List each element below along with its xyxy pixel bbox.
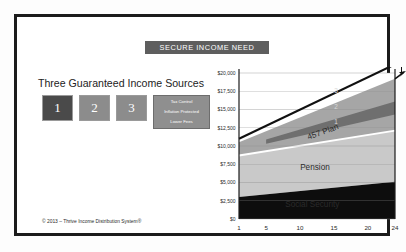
- y-axis-tick-label: $0: [230, 216, 236, 222]
- copyright-text: © 2013 – Thrive Income Distribution Syst…: [42, 219, 141, 224]
- feature-line-tax-control: Tax Control: [171, 100, 193, 104]
- secure-income-need-banner: SECURE INCOME NEED: [145, 41, 269, 54]
- slide-canvas: SECURE INCOME NEED Three Guaranteed Inco…: [0, 0, 406, 252]
- income-source-box-1[interactable]: 1: [42, 95, 73, 121]
- income-source-box-3-label: 3: [128, 100, 135, 116]
- x-axis-tick-label: 1: [237, 224, 241, 231]
- band-label: Pension: [300, 163, 330, 172]
- plan-top-extension: [395, 72, 404, 79]
- series-marker-label: 2: [334, 103, 338, 110]
- x-axis-tick-label: 5: [264, 224, 268, 231]
- band-label: Social Security: [285, 200, 340, 209]
- y-axis-tick-label: $12,500: [217, 125, 235, 131]
- y-axis-tick-label: $15,000: [217, 106, 235, 112]
- chart-svg: $20,000$17,500$15,000$12,500$10,000$7,50…: [207, 67, 406, 239]
- banner-label: SECURE INCOME NEED: [160, 43, 255, 52]
- x-axis-tick-label: 20: [364, 224, 371, 231]
- series-marker-label: 1: [334, 118, 338, 125]
- y-axis-tick-label: $17,500: [217, 88, 235, 94]
- income-stack-chart: $20,000$17,500$15,000$12,500$10,000$7,50…: [207, 67, 406, 239]
- y-axis-tick-label: $5,000: [220, 179, 236, 185]
- x-axis-tick-label: 24: [392, 224, 399, 231]
- income-source-box-1-label: 1: [54, 100, 61, 116]
- x-axis-tick-label: 10: [297, 224, 304, 231]
- y-axis-tick-label: $20,000: [217, 70, 235, 76]
- feature-line-inflation-protected: Inflation Protected: [164, 110, 199, 114]
- x-axis-tick-label: 15: [331, 224, 338, 231]
- y-axis-tick-label: $7,500: [220, 161, 236, 167]
- income-sources-row: 1 2 3 Tax Control Inflation Protected Lo…: [42, 95, 210, 129]
- y-axis-tick-label: $2,500: [220, 198, 236, 204]
- y-axis-tick-label: $10,000: [217, 143, 235, 149]
- series-marker-label: 3: [334, 87, 338, 94]
- income-source-box-3[interactable]: 3: [116, 95, 147, 121]
- feature-line-lower-fees: Lower Fees: [170, 120, 192, 124]
- feature-benefits-box: Tax Control Inflation Protected Lower Fe…: [153, 95, 210, 129]
- page-title: Three Guaranteed Income Sources: [32, 77, 210, 89]
- income-source-box-2[interactable]: 2: [79, 95, 110, 121]
- income-source-box-2-label: 2: [91, 100, 98, 116]
- slide-frame: SECURE INCOME NEED Three Guaranteed Inco…: [14, 14, 390, 236]
